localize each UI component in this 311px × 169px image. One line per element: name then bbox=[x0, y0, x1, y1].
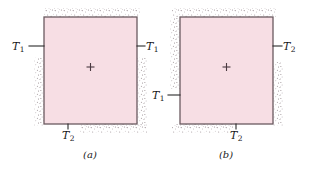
temperature-subscript: 1 bbox=[159, 94, 164, 103]
temperature-subscript: 2 bbox=[290, 45, 295, 54]
panel-b-caption: (b) bbox=[211, 150, 241, 160]
temperature-label-b-bottom: T2 bbox=[230, 130, 242, 143]
temperature-label-a-bottom: T2 bbox=[62, 130, 74, 143]
insulation-band-top bbox=[172, 8, 276, 17]
temperature-label-b-right: T2 bbox=[283, 41, 295, 54]
insulation-band-right-lower bbox=[273, 62, 283, 126]
temperature-subscript: 1 bbox=[19, 45, 24, 54]
panel-a-caption: (a) bbox=[75, 150, 105, 160]
figure-canvas bbox=[0, 0, 311, 169]
panel-a-group bbox=[29, 8, 147, 133]
insulation-band-left-lower bbox=[34, 57, 44, 126]
temperature-subscript: 2 bbox=[237, 134, 242, 143]
insulation-band-bottom-right bbox=[80, 124, 147, 133]
figure-root: T1 T1 T2 T1 T2 T2 (a) (b) bbox=[0, 0, 311, 169]
temperature-label-a-left: T1 bbox=[12, 41, 24, 54]
temperature-label-b-left: T1 bbox=[152, 90, 164, 103]
insulation-band-left-upper bbox=[170, 17, 180, 89]
temperature-label-a-right: T1 bbox=[146, 41, 158, 54]
insulation-band-bottom-left bbox=[172, 124, 234, 133]
insulation-band-right-lower bbox=[137, 57, 147, 126]
panel-b-group bbox=[168, 8, 283, 133]
temperature-subscript: 1 bbox=[153, 45, 158, 54]
temperature-subscript: 2 bbox=[69, 134, 74, 143]
insulation-band-top bbox=[44, 8, 140, 17]
